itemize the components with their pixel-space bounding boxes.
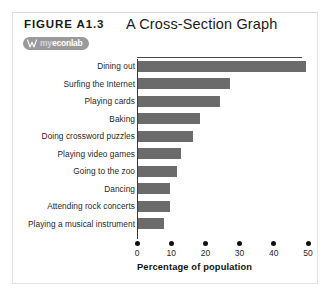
- x-axis-tick-dot: [306, 241, 311, 246]
- x-axis-tick-dot: [271, 241, 276, 246]
- bar: [138, 166, 177, 177]
- x-axis-tick-label: 0: [122, 248, 152, 258]
- myeconlab-logo-icon: [27, 39, 37, 48]
- bar-row: Playing cards: [13, 94, 319, 112]
- x-axis-tick-dot: [169, 241, 174, 246]
- bar: [138, 113, 200, 124]
- bar-category-label: Dancing: [104, 184, 135, 194]
- bar: [138, 148, 181, 159]
- bar-row: Dancing: [13, 182, 319, 200]
- bar-category-label: Going to the zoo: [73, 166, 135, 176]
- x-axis-tick-label: 40: [259, 248, 289, 258]
- bar: [138, 78, 230, 89]
- logo-prefix: my: [40, 38, 52, 48]
- bar-row: Attending rock concerts: [13, 199, 319, 217]
- x-axis-tick-label: 10: [156, 248, 186, 258]
- bar: [138, 131, 193, 142]
- bar-category-label: Playing video games: [57, 149, 135, 159]
- bar: [138, 61, 306, 72]
- bar-row: Playing video games: [13, 147, 319, 165]
- bar: [138, 96, 220, 107]
- bar-category-label: Doing crossword puzzles: [42, 131, 135, 141]
- bar-category-label: Dining out: [97, 61, 135, 71]
- x-axis-tick-label: 50: [293, 248, 323, 258]
- x-axis-title: Percentage of population: [137, 262, 252, 272]
- bar-category-label: Attending rock concerts: [47, 201, 135, 211]
- bar-category-label: Baking: [109, 114, 135, 124]
- bar-category-label: Playing a musical instrument: [28, 219, 135, 229]
- header-divider: [137, 57, 302, 58]
- bar: [138, 218, 164, 229]
- myeconlab-wordmark: myeconlab: [40, 39, 83, 48]
- bar-row: Going to the zoo: [13, 164, 319, 182]
- bar-row: Playing a musical instrument: [13, 217, 319, 235]
- bar: [138, 183, 170, 194]
- myeconlab-logo: myeconlab: [23, 37, 89, 50]
- logo-word: econlab: [52, 38, 83, 48]
- x-axis-tick-dot: [203, 241, 208, 246]
- x-axis-tick-label: 20: [190, 248, 220, 258]
- figure-number: FIGURE A1.3: [24, 18, 104, 30]
- x-axis-tick-dot: [135, 241, 140, 246]
- figure-card: FIGURE A1.3 A Cross-Section Graph myecon…: [12, 12, 318, 284]
- cross-section-bar-chart: Dining outSurfing the InternetPlaying ca…: [13, 59, 319, 285]
- bar-row: Baking: [13, 112, 319, 130]
- bar-row: Dining out: [13, 59, 319, 77]
- x-axis-tick-label: 30: [225, 248, 255, 258]
- bar-category-label: Surfing the Internet: [63, 79, 135, 89]
- bar-row: Doing crossword puzzles: [13, 129, 319, 147]
- figure-title: A Cross-Section Graph: [126, 16, 277, 32]
- bar: [138, 201, 170, 212]
- x-axis-tick-dot: [237, 241, 242, 246]
- figure-header: FIGURE A1.3 A Cross-Section Graph myecon…: [13, 13, 317, 57]
- bar-row: Surfing the Internet: [13, 77, 319, 95]
- bar-category-label: Playing cards: [85, 96, 135, 106]
